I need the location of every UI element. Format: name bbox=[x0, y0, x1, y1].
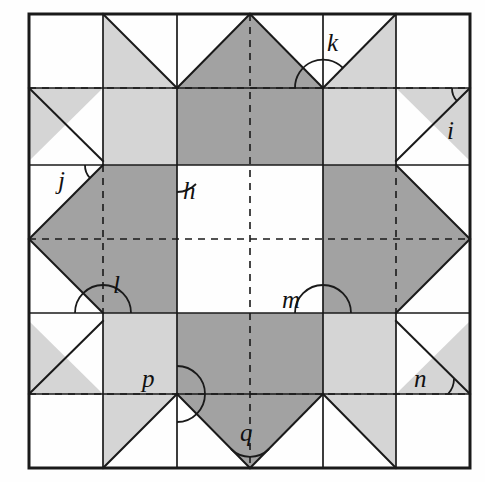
angle-label-p: p bbox=[142, 366, 155, 391]
angle-label-i: i bbox=[447, 118, 454, 143]
angle-label-n: n bbox=[414, 366, 427, 391]
angle-label-n-text: n bbox=[414, 365, 427, 392]
angle-label-p-text: p bbox=[142, 365, 155, 392]
angle-label-l-text: l bbox=[113, 271, 120, 298]
angle-label-q-text: q bbox=[240, 419, 253, 446]
dark-top-body bbox=[177, 88, 323, 165]
light-sq-br bbox=[323, 313, 396, 394]
angle-label-h-text: h bbox=[183, 177, 196, 204]
angle-label-k-text: k bbox=[327, 29, 338, 56]
tessellation-figure bbox=[0, 0, 485, 482]
angle-label-h: h bbox=[183, 178, 196, 203]
angle-label-j-text: j bbox=[58, 167, 65, 194]
angle-label-k: k bbox=[327, 30, 338, 55]
angle-label-q: q bbox=[240, 420, 253, 445]
angle-label-j: j bbox=[58, 168, 65, 193]
diagram-canvas: h i j k l m n p q bbox=[0, 0, 485, 482]
angle-label-l: l bbox=[113, 272, 120, 297]
angle-label-i-text: i bbox=[447, 117, 454, 144]
light-sq-bl bbox=[103, 313, 177, 394]
angle-label-m-text: m bbox=[282, 286, 300, 313]
light-sq-tr bbox=[323, 88, 396, 165]
light-sq-tl bbox=[103, 88, 177, 165]
angle-label-m: m bbox=[282, 287, 300, 312]
